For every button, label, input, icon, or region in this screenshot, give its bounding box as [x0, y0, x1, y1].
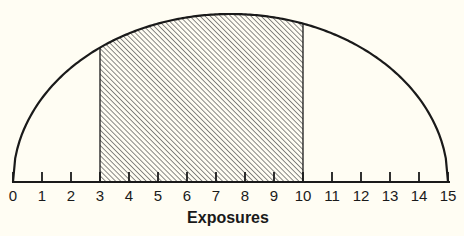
x-tick-label: 8 — [241, 187, 249, 204]
x-axis-tick-labels: 0123456789101112131415 — [9, 187, 457, 204]
x-tick-label: 7 — [212, 187, 220, 204]
x-tick-label: 11 — [324, 187, 340, 204]
x-tick-label: 12 — [353, 187, 370, 204]
x-tick-label: 5 — [154, 187, 162, 204]
x-tick-label: 9 — [270, 187, 278, 204]
x-tick-label: 6 — [183, 187, 191, 204]
x-tick-label: 4 — [125, 187, 133, 204]
x-tick-label: 2 — [67, 187, 75, 204]
shaded-region — [100, 12, 303, 182]
x-tick-label: 3 — [96, 187, 104, 204]
exposures-chart: 0123456789101112131415 Exposures — [0, 0, 464, 236]
x-tick-label: 0 — [9, 187, 17, 204]
x-tick-label: 1 — [38, 187, 46, 204]
x-axis-title: Exposures — [187, 209, 269, 226]
x-tick-label: 15 — [440, 187, 457, 204]
x-tick-label: 10 — [295, 187, 312, 204]
x-tick-label: 13 — [382, 187, 399, 204]
x-tick-label: 14 — [411, 187, 428, 204]
